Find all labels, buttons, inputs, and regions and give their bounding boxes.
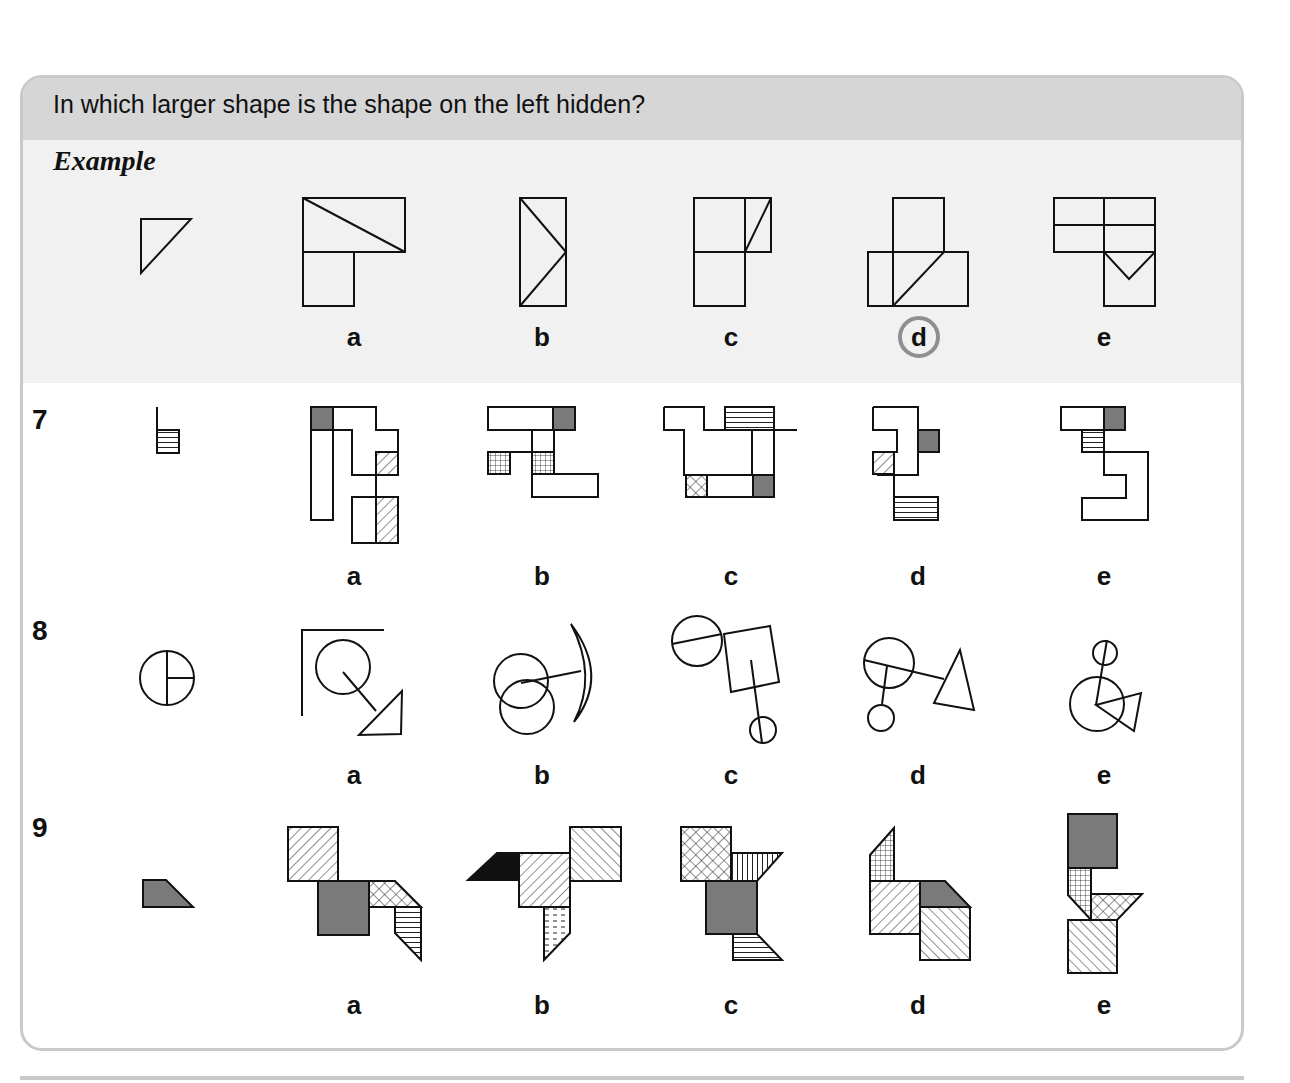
q9-option-d-label[interactable]: d (898, 990, 938, 1021)
q7-option-a (311, 407, 398, 543)
q7-option-d (873, 407, 939, 520)
q7-target-shape (157, 407, 179, 453)
q8-option-a (302, 630, 402, 735)
q8-option-c-label[interactable]: c (711, 760, 751, 791)
bottom-divider (20, 1076, 1244, 1080)
example-option-b-label[interactable]: b (522, 322, 562, 353)
question-7-number: 7 (32, 404, 48, 436)
q9-option-d (870, 828, 970, 960)
example-option-a-label[interactable]: a (334, 322, 374, 353)
q9-option-c (681, 827, 782, 960)
question-9-number: 9 (32, 812, 48, 844)
q9-option-b-label[interactable]: b (522, 990, 562, 1021)
q7-option-c-label[interactable]: c (711, 561, 751, 592)
example-option-e (1054, 198, 1155, 306)
q8-option-b-label[interactable]: b (522, 760, 562, 791)
q8-option-d (864, 638, 974, 731)
puzzle-figures (0, 0, 1290, 1083)
q8-target-shape (140, 651, 194, 705)
q7-option-b (488, 407, 598, 497)
q8-option-e-label[interactable]: e (1084, 760, 1124, 791)
q7-option-e (1061, 407, 1148, 520)
example-option-b (520, 198, 566, 306)
q9-option-e-label[interactable]: e (1084, 990, 1124, 1021)
example-option-d (868, 198, 968, 306)
q8-option-b (494, 624, 591, 734)
example-option-c-label[interactable]: c (711, 322, 751, 353)
example-option-e-label[interactable]: e (1084, 322, 1124, 353)
q9-option-b (468, 827, 621, 960)
q7-option-e-label[interactable]: e (1084, 561, 1124, 592)
q9-option-e (1068, 814, 1142, 973)
q8-option-e (1070, 640, 1141, 731)
example-target-shape (141, 219, 191, 273)
example-option-c (694, 198, 771, 306)
example-option-a (303, 198, 405, 306)
q8-option-c (672, 616, 779, 743)
q8-option-d-label[interactable]: d (898, 760, 938, 791)
q7-option-a-label[interactable]: a (334, 561, 374, 592)
example-option-d-label-selected[interactable]: d (898, 316, 940, 358)
q7-option-c (664, 407, 797, 497)
q7-option-d-label[interactable]: d (898, 561, 938, 592)
q8-option-a-label[interactable]: a (334, 760, 374, 791)
q7-option-b-label[interactable]: b (522, 561, 562, 592)
q9-option-c-label[interactable]: c (711, 990, 751, 1021)
q9-target-shape (143, 880, 193, 907)
q9-option-a-label[interactable]: a (334, 990, 374, 1021)
question-8-number: 8 (32, 615, 48, 647)
q9-option-a (288, 827, 421, 960)
